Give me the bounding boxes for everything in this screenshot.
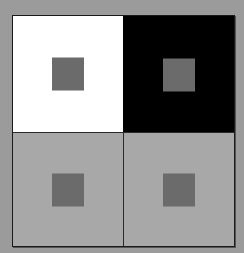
- quadrant-top-right: [123, 16, 234, 133]
- quadrant-top-left: [13, 16, 123, 132]
- inner-square-top-left: [52, 58, 84, 91]
- quadrant-bottom-right: [123, 132, 234, 246]
- inner-square-top-right: [163, 58, 195, 91]
- inner-square-bottom-right: [163, 173, 195, 206]
- quadrant-bottom-left: [13, 132, 123, 246]
- illusion-frame: [12, 15, 235, 247]
- inner-square-bottom-left: [52, 173, 84, 206]
